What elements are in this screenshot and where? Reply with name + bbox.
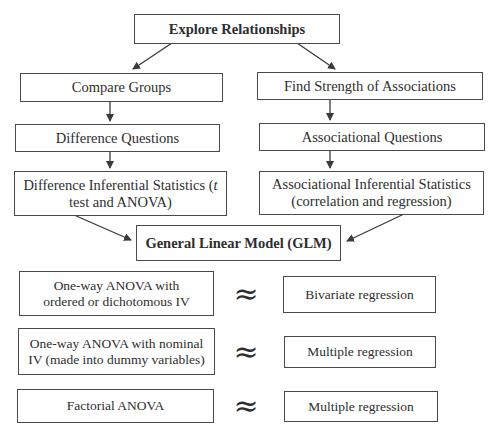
box-oneway-anova-ordered: One-way ANOVA with ordered or dichotomou… <box>19 271 214 316</box>
difference-questions-label: Difference Questions <box>56 130 179 147</box>
multiple-regression-label-2: Multiple regression <box>308 399 413 415</box>
box-multiple-regression-2: Multiple regression <box>284 391 438 422</box>
compare-groups-label: Compare Groups <box>72 79 171 96</box>
arrow-left-to-glm <box>74 215 131 240</box>
box-compare-groups: Compare Groups <box>20 73 223 102</box>
associational-inferential-line1: Associational Inferential Statistics <box>272 176 471 193</box>
arrow-right-to-glm <box>347 214 404 241</box>
box-find-strength-of-associations: Find Strength of Associations <box>257 72 483 100</box>
box-bivariate-regression: Bivariate regression <box>283 276 436 313</box>
associational-inferential-line2: (correlation and regression) <box>272 193 471 210</box>
multiple-regression-label-1: Multiple regression <box>307 344 412 360</box>
glm-label: General Linear Model (GLM) <box>145 235 331 252</box>
arrow-root-to-find-strength <box>297 43 335 69</box>
box-oneway-anova-nominal: One-way ANOVA with nominal IV (made into… <box>18 328 215 375</box>
box-multiple-regression-1: Multiple regression <box>284 336 436 368</box>
difference-inferential-line2: test and ANOVA) <box>23 194 217 211</box>
box-factorial-anova: Factorial ANOVA <box>17 389 214 423</box>
root-box-explore-relationships: Explore Relationships <box>134 14 340 44</box>
approx-equal-icon: ≈ <box>231 279 261 309</box>
oneway-nominal-line2: IV (made into dummy variables) <box>28 352 205 368</box>
root-label: Explore Relationships <box>169 21 305 38</box>
box-general-linear-model: General Linear Model (GLM) <box>136 225 341 261</box>
box-associational-inferential-statistics: Associational Inferential Statistics (co… <box>259 171 484 215</box>
oneway-ordered-line2: ordered or dichotomous IV <box>43 294 190 310</box>
difference-inferential-line1: Difference Inferential Statistics (t <box>23 177 217 194</box>
box-difference-questions: Difference Questions <box>15 124 220 152</box>
factorial-anova-label: Factorial ANOVA <box>67 398 165 414</box>
approx-equal-icon: ≈ <box>231 337 261 367</box>
box-associational-questions: Associational Questions <box>259 123 485 151</box>
box-difference-inferential-statistics: Difference Inferential Statistics (t tes… <box>14 171 227 216</box>
oneway-ordered-line1: One-way ANOVA with <box>43 278 190 294</box>
associational-questions-label: Associational Questions <box>302 129 443 146</box>
approx-equal-icon: ≈ <box>231 391 261 421</box>
arrow-root-to-compare-groups <box>133 43 172 69</box>
find-strength-label: Find Strength of Associations <box>284 78 456 95</box>
oneway-nominal-line1: One-way ANOVA with nominal <box>28 336 205 352</box>
bivariate-regression-label: Bivariate regression <box>305 287 413 303</box>
